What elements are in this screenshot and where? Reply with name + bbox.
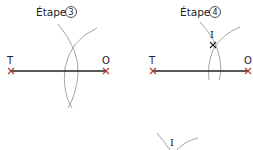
arc-fragment-right [177, 138, 198, 150]
step-number: 4 [212, 8, 217, 17]
point-o-label: O [102, 55, 110, 66]
point-i-label: I [210, 29, 214, 40]
construction-diagram: Étape 3 T O Étape 4 I [0, 0, 253, 150]
point-t-label: T [6, 55, 14, 66]
point-i-cross [210, 42, 216, 48]
panel-step-4: Étape 4 I T O [148, 6, 252, 80]
point-i-label: I [170, 137, 174, 148]
panel-step-3: Étape 3 T O [6, 6, 110, 108]
step-title: Étape [36, 6, 66, 18]
step-number: 3 [68, 8, 73, 17]
arc-fragment-left [157, 133, 170, 150]
bottom-fragment: I [157, 133, 198, 150]
point-t-label: T [148, 55, 156, 66]
arc-from-o [58, 24, 78, 108]
step-title: Étape [180, 6, 210, 18]
point-o-label: O [244, 55, 252, 66]
